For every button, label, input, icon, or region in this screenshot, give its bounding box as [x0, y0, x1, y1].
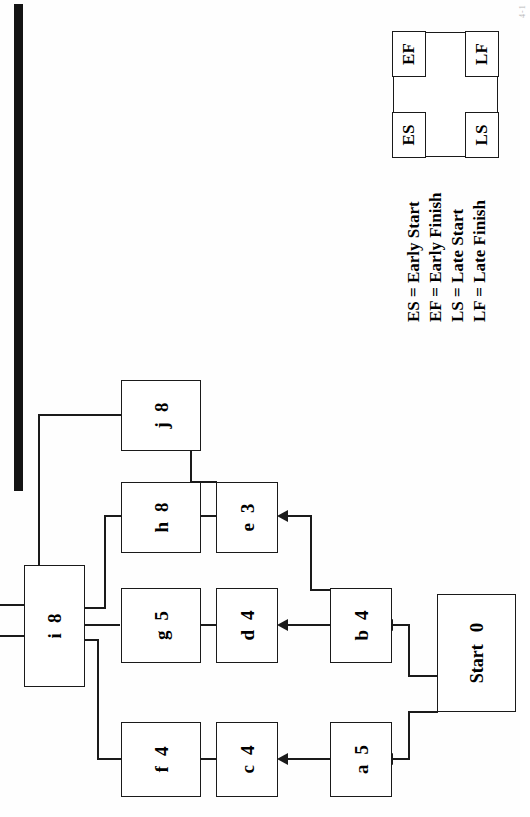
node-start-duration: 0 — [467, 623, 486, 633]
edge-start-a-drop — [392, 758, 410, 760]
edge-b-d-line — [287, 624, 331, 626]
key-cell-ls-label: LS — [472, 125, 492, 146]
node-a-duration: 5 — [352, 745, 371, 755]
node-start[interactable]: Start 0 — [437, 594, 516, 712]
edge-start-b-run — [408, 625, 410, 677]
key-cell-ef: EF — [392, 31, 426, 77]
node-c-label: c — [238, 765, 257, 773]
edge-b-d-arrowhead — [277, 619, 288, 631]
edge-a-c-arrowhead — [277, 753, 288, 765]
edge-start-a-run — [408, 711, 410, 760]
key-cell-ls: LS — [465, 112, 499, 158]
node-b-duration: 4 — [352, 610, 371, 620]
edge-b-e-riser — [310, 589, 332, 591]
edge-j-end-riser — [38, 414, 121, 416]
node-d-duration: 4 — [238, 610, 257, 620]
key-cell-lf: LF — [465, 31, 499, 77]
node-b[interactable]: b 4 — [330, 588, 392, 663]
node-h[interactable]: h 8 — [121, 482, 201, 553]
node-f-duration: 4 — [152, 747, 171, 757]
edge-a-c-line — [287, 758, 331, 760]
node-g-duration: 5 — [152, 611, 171, 621]
edge-start-a-riser — [408, 711, 438, 713]
edge-f-i-riser — [97, 758, 121, 760]
key-cell-es: ES — [392, 112, 426, 158]
node-c[interactable]: c 4 — [216, 722, 278, 797]
node-i-duration: 8 — [45, 614, 64, 624]
edge-start-b-riser — [408, 675, 438, 677]
edge-h-i-run — [104, 515, 106, 609]
node-a-label: a — [352, 765, 371, 775]
legend-line-lf: LF = Late Finish — [469, 193, 491, 323]
edge-b-e-drop — [287, 515, 312, 517]
node-d-label: d — [238, 630, 257, 641]
node-a[interactable]: a 5 — [330, 722, 392, 797]
key-cell-es-label: ES — [399, 125, 419, 146]
node-j[interactable]: j 8 — [121, 380, 201, 451]
legend-line-es: ES = Early Start — [403, 193, 425, 323]
node-h-label: h — [152, 522, 171, 533]
edge-i-end-line — [0, 635, 24, 637]
node-h-duration: 8 — [152, 502, 171, 512]
edge-f-i-run — [97, 640, 99, 760]
node-e-duration: 3 — [238, 504, 257, 514]
node-b-label: b — [352, 630, 371, 641]
node-g[interactable]: g 5 — [121, 588, 201, 663]
legend-line-ef: EF = Early Finish — [425, 193, 447, 323]
node-j-label: j — [152, 422, 171, 428]
edge-start-b-drop — [392, 624, 410, 626]
edge-h-i-riser — [104, 515, 122, 517]
node-c-duration: 4 — [238, 746, 257, 756]
node-i[interactable]: i 8 — [24, 565, 85, 687]
legend-block: ES = Early Start EF = Early Finish LS = … — [403, 193, 491, 323]
node-j-duration: 8 — [152, 403, 171, 413]
node-e[interactable]: e 3 — [216, 482, 278, 553]
legend-line-ls: LS = Late Start — [447, 193, 469, 323]
node-i-label: i — [45, 633, 64, 638]
node-d[interactable]: d 4 — [216, 588, 278, 663]
key-cell-lf-label: LF — [472, 43, 492, 65]
node-e-label: e — [238, 523, 257, 531]
node-start-label: Start — [468, 644, 486, 683]
time-key-box: ES EF LS LF — [393, 32, 498, 157]
edge-b-e-arrowhead — [277, 510, 288, 522]
node-f-label: f — [152, 766, 171, 772]
key-cell-ef-label: EF — [399, 43, 419, 65]
node-g-label: g — [152, 631, 171, 641]
edge-b-e-run — [310, 516, 312, 591]
node-f[interactable]: f 4 — [121, 722, 201, 797]
